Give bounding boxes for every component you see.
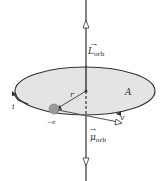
charge-label: −e bbox=[47, 118, 56, 125]
area-label: A bbox=[124, 87, 132, 97]
L-orb-vector-arrow: → bbox=[91, 41, 97, 49]
velocity-label: v bbox=[120, 113, 125, 122]
L-orb-arrowhead bbox=[83, 20, 89, 28]
current-label: i bbox=[12, 102, 15, 111]
electron bbox=[49, 104, 59, 114]
mu-orb-arrowhead bbox=[83, 158, 89, 166]
orbital-magnetic-moment-diagram: Lorb → A r i −e v μorb → bbox=[0, 0, 162, 181]
mu-orb-vector-arrow: → bbox=[90, 126, 96, 134]
